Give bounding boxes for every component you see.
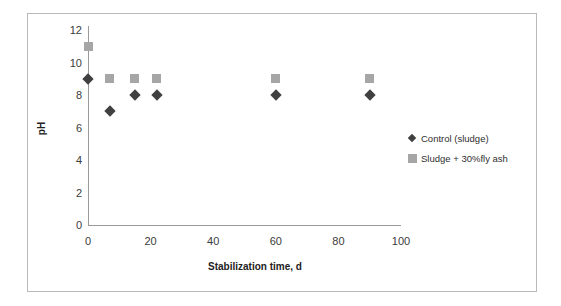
x-axis-title: Stabilization time, d <box>140 261 370 272</box>
x-axis-line <box>88 225 401 226</box>
x-tick-label: 80 <box>318 236 358 247</box>
legend-item: Sludge + 30%fly ash <box>408 148 528 168</box>
chart-figure: 024681012 020406080100 pH Stabilization … <box>0 0 561 306</box>
chart-legend: Control (sludge)Sludge + 30%fly ash <box>408 128 528 168</box>
diamond-marker-icon <box>408 134 416 142</box>
square-marker-icon <box>408 154 417 163</box>
legend-label: Control (sludge) <box>421 133 489 144</box>
y-tick-label: 8 <box>56 90 82 101</box>
y-tick-label: 6 <box>56 123 82 134</box>
y-tick-label: 10 <box>56 58 82 69</box>
x-tick-label: 20 <box>131 236 171 247</box>
y-tick-label: 4 <box>56 155 82 166</box>
x-tick-label: 100 <box>381 236 421 247</box>
legend-item: Control (sludge) <box>408 128 528 148</box>
legend-label: Sludge + 30%fly ash <box>421 153 508 164</box>
x-tick-label: 0 <box>68 236 108 247</box>
y-tick-label: 0 <box>56 220 82 231</box>
y-axis-line <box>88 26 89 226</box>
y-axis-title: pH <box>36 114 47 144</box>
x-tick-label: 40 <box>193 236 233 247</box>
x-axis-tick-labels: 020406080100 <box>0 236 561 252</box>
y-axis-tick-labels: 024681012 <box>52 0 82 306</box>
x-tick-label: 60 <box>256 236 296 247</box>
y-tick-label: 12 <box>56 25 82 36</box>
y-tick-label: 2 <box>56 188 82 199</box>
